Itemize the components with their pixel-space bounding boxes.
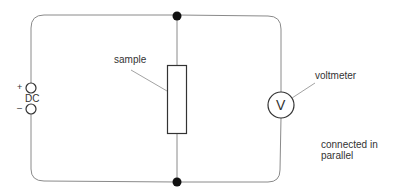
voltmeter-label: voltmeter xyxy=(315,70,356,81)
circuit-diagram xyxy=(0,0,393,195)
wire-top-right xyxy=(177,15,281,92)
dc-label: DC xyxy=(25,93,39,104)
plus-sign: + xyxy=(17,82,22,93)
sample-resistor xyxy=(168,66,187,134)
note-line-2: parallel xyxy=(321,150,353,161)
junction-top xyxy=(173,12,182,21)
junction-bottom xyxy=(173,178,182,187)
sample-label: sample xyxy=(114,54,146,65)
note-line-1: connected in xyxy=(321,139,378,150)
sample-leader-line xyxy=(131,70,167,91)
wire-top-left xyxy=(31,15,177,83)
minus-sign: – xyxy=(17,103,22,114)
voltmeter-leader-line xyxy=(292,83,315,98)
wire-bottom-right xyxy=(177,118,281,182)
dc-positive-terminal xyxy=(26,83,36,93)
wire-bottom-left xyxy=(31,114,177,182)
dc-negative-terminal xyxy=(26,104,36,114)
voltmeter-v-symbol: V xyxy=(276,98,285,112)
